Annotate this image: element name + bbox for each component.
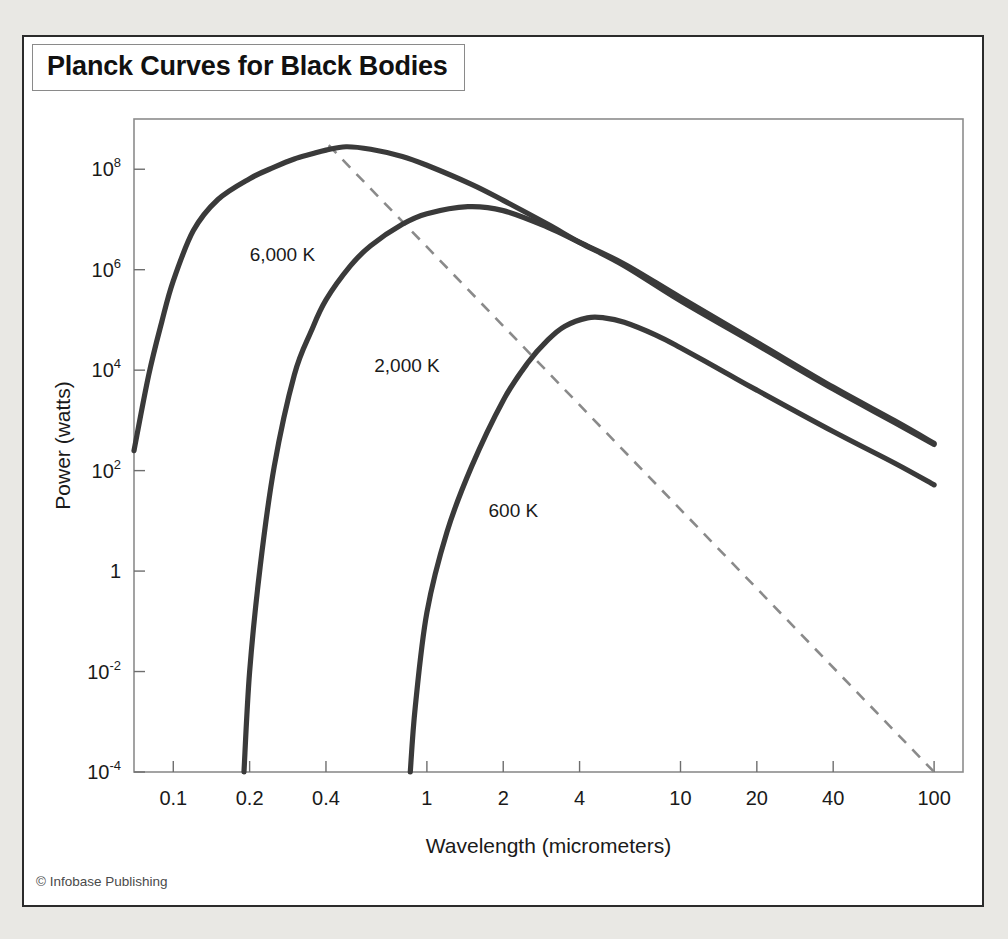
axes-frame xyxy=(134,119,963,772)
x-axis-title: Wavelength (micrometers) xyxy=(426,834,671,857)
x-tick-label-3: 1 xyxy=(421,787,432,809)
series-curves xyxy=(134,147,934,772)
y-tick-label-1: 106 xyxy=(92,256,121,281)
x-tick-label-9: 100 xyxy=(917,787,950,809)
x-tick-label-8: 40 xyxy=(822,787,844,809)
x-tick-label-7: 20 xyxy=(746,787,768,809)
x-tick-label-2: 0.4 xyxy=(312,787,340,809)
x-tick-label-6: 10 xyxy=(669,787,691,809)
chart-plot-area: 0.10.20.4124102040100 108106104102110-21… xyxy=(24,37,986,909)
y-tick-label-2: 104 xyxy=(92,356,121,381)
curve-600k xyxy=(410,317,934,772)
figure-panel: Planck Curves for Black Bodies 0.10.20.4… xyxy=(22,35,984,907)
y-axis-ticks: 108106104102110-210-4 xyxy=(87,155,145,783)
y-tick-label-6: 10-4 xyxy=(87,758,121,783)
x-tick-label-1: 0.2 xyxy=(236,787,264,809)
y-tick-label-5: 10-2 xyxy=(87,658,121,683)
copyright-notice: © Infobase Publishing xyxy=(36,874,168,889)
x-tick-label-4: 2 xyxy=(498,787,509,809)
x-tick-label-0: 0.1 xyxy=(159,787,187,809)
axis-titles: Wavelength (micrometers)Power (watts) xyxy=(51,381,671,857)
y-tick-label-4: 1 xyxy=(110,560,121,582)
curve-6000k xyxy=(134,147,934,451)
curve-2000k xyxy=(244,207,934,772)
curve-label-2000k: 2,000 K xyxy=(374,355,440,376)
y-tick-label-0: 108 xyxy=(92,155,121,180)
y-tick-label-3: 102 xyxy=(92,457,121,482)
planck-curves-chart: 0.10.20.4124102040100 108106104102110-21… xyxy=(24,37,986,909)
x-tick-label-5: 4 xyxy=(574,787,585,809)
plot-frame xyxy=(134,119,963,772)
x-axis-ticks: 0.10.20.4124102040100 xyxy=(159,761,950,809)
curve-label-600k: 600 K xyxy=(489,500,539,521)
curve-label-6000k: 6,000 K xyxy=(250,244,316,265)
y-axis-title: Power (watts) xyxy=(51,381,74,509)
